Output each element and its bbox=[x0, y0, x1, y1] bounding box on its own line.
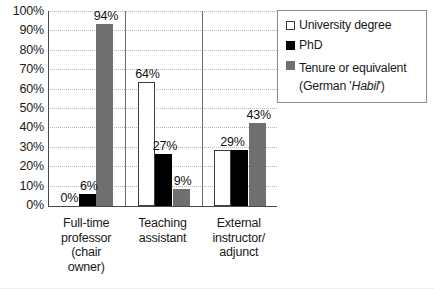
x-axis-label-line: assistant bbox=[124, 231, 200, 246]
legend-label-university-degree: University degree bbox=[299, 18, 391, 32]
x-axis-label-line: owner) bbox=[48, 260, 124, 275]
x-axis-label-line: External bbox=[201, 216, 277, 231]
y-axis-tick-label: 10% bbox=[0, 180, 44, 192]
bar-value-label: 9% bbox=[174, 175, 192, 188]
y-axis: 100%90%80%70%60%50%40%30%20%10%0% bbox=[0, 0, 44, 212]
x-axis-category-labels: Full-timeprofessor(chairowner)Teachingas… bbox=[48, 212, 277, 292]
y-axis-tick-label: 60% bbox=[0, 83, 44, 95]
y-axis-tick-label: 0% bbox=[0, 199, 44, 211]
bar-value-label: 0% bbox=[60, 192, 78, 205]
legend-sub-suffix: ') bbox=[379, 79, 385, 93]
legend-item-tenure: Tenure or equivalent (German 'Habil') bbox=[286, 58, 419, 94]
bar-chart: 100%90%80%70%60%50%40%30%20%10%0% 0%6%94… bbox=[0, 0, 434, 295]
bar-value-label: 27% bbox=[153, 140, 177, 153]
x-axis-label: Teachingassistant bbox=[124, 216, 200, 245]
legend-label-tenure-wrap: Tenure or equivalent (German 'Habil') bbox=[299, 58, 406, 94]
x-axis-label: Externalinstructor/adjunct bbox=[201, 216, 277, 260]
x-axis-label: Full-timeprofessor(chairowner) bbox=[48, 216, 124, 274]
bar-groups: 0%6%94%64%27%9%29%43% bbox=[49, 11, 277, 206]
y-axis-tick-label: 50% bbox=[0, 102, 44, 114]
x-axis-label-line: Teaching bbox=[124, 216, 200, 231]
legend-swatch-gray-icon bbox=[286, 61, 295, 70]
legend-sublabel-tenure: (German 'Habil') bbox=[299, 79, 385, 93]
legend: University degree PhD Tenure or equivale… bbox=[277, 10, 427, 103]
plot-area: 0%6%94%64%27%9%29%43% bbox=[48, 11, 277, 207]
bar-value-label: 43% bbox=[247, 109, 271, 122]
category-separator bbox=[125, 11, 126, 206]
legend-sub-italic: Habil bbox=[351, 79, 378, 93]
y-axis-tick-label: 80% bbox=[0, 44, 44, 56]
x-axis-label-line: adjunct bbox=[201, 245, 277, 260]
legend-item-phd: PhD bbox=[286, 38, 419, 52]
x-axis-label-line: professor bbox=[48, 231, 124, 246]
bar bbox=[173, 189, 190, 206]
frame-bottom-divider bbox=[0, 288, 434, 289]
x-axis-label-line: instructor/ bbox=[201, 231, 277, 246]
bar-value-label: 6% bbox=[80, 180, 98, 193]
legend-swatch-white-icon bbox=[286, 21, 295, 30]
x-axis-label-line: Full-time bbox=[48, 216, 124, 231]
bar bbox=[214, 150, 231, 206]
bar bbox=[249, 123, 266, 206]
legend-label-phd: PhD bbox=[299, 38, 322, 52]
y-axis-tick-label: 30% bbox=[0, 141, 44, 153]
legend-label-tenure: Tenure or equivalent bbox=[299, 61, 406, 75]
bar bbox=[79, 194, 96, 206]
bar bbox=[155, 154, 172, 206]
bar bbox=[96, 24, 113, 206]
bar bbox=[231, 150, 248, 206]
y-axis-tick-label: 70% bbox=[0, 63, 44, 75]
x-axis-label-line: (chair bbox=[48, 245, 124, 260]
y-axis-tick-label: 20% bbox=[0, 160, 44, 172]
y-axis-tick-label: 100% bbox=[0, 5, 44, 17]
legend-sub-prefix: (German ' bbox=[299, 79, 351, 93]
legend-swatch-black-icon bbox=[286, 41, 295, 50]
bar-value-label: 94% bbox=[94, 10, 118, 23]
y-axis-tick-label: 40% bbox=[0, 121, 44, 133]
bar-value-label: 29% bbox=[220, 136, 244, 149]
bar-value-label: 64% bbox=[135, 68, 159, 81]
category-separator bbox=[202, 11, 203, 206]
y-axis-tick-label: 90% bbox=[0, 24, 44, 36]
legend-item-university-degree: University degree bbox=[286, 18, 419, 32]
